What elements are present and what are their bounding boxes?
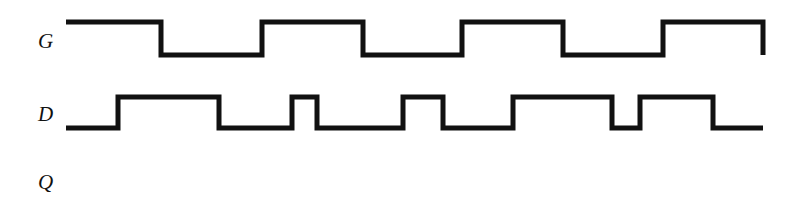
waveform-label-d: D	[38, 104, 53, 125]
waveform-label-q: Q	[38, 172, 53, 193]
timing-diagram-figure: G D Q	[0, 0, 811, 203]
waveform-canvas	[0, 0, 811, 203]
waveform-g-trace	[66, 22, 763, 55]
waveform-label-g: G	[38, 31, 53, 52]
waveform-d-trace	[66, 97, 763, 128]
